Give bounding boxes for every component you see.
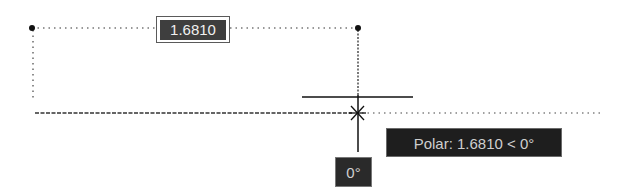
polar-tooltip: Polar: 1.6810 < 0° bbox=[386, 128, 562, 157]
dimension-value[interactable]: 1.6810 bbox=[160, 20, 226, 40]
grip-start-point[interactable] bbox=[29, 25, 35, 31]
dimension-input-box[interactable]: 1.6810 bbox=[156, 16, 230, 43]
drawing-canvas[interactable] bbox=[0, 0, 625, 196]
grip-end-point[interactable] bbox=[355, 25, 361, 31]
angle-tooltip: 0° bbox=[335, 157, 372, 187]
